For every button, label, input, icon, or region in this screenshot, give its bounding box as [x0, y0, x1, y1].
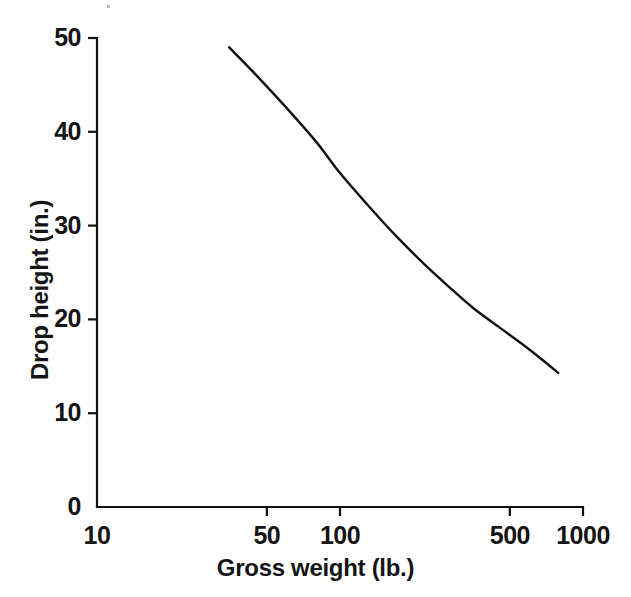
x-axis-ticks	[267, 507, 583, 516]
x-tick-label: 100	[280, 523, 400, 548]
y-tick-label: 0	[0, 494, 81, 519]
x-tick-label: 1000	[523, 523, 631, 548]
data-series-line	[229, 47, 558, 372]
plot-area	[0, 0, 631, 597]
chart-figure: 01020304050 10501005001000 Gross weight …	[0, 0, 631, 597]
y-tick-label: 50	[0, 25, 81, 50]
y-axis-title: Drop height (in.)	[28, 140, 52, 440]
x-tick-label: 10	[37, 523, 157, 548]
y-axis-ticks	[88, 38, 97, 413]
x-axis-title: Gross weight (lb.)	[0, 556, 631, 580]
